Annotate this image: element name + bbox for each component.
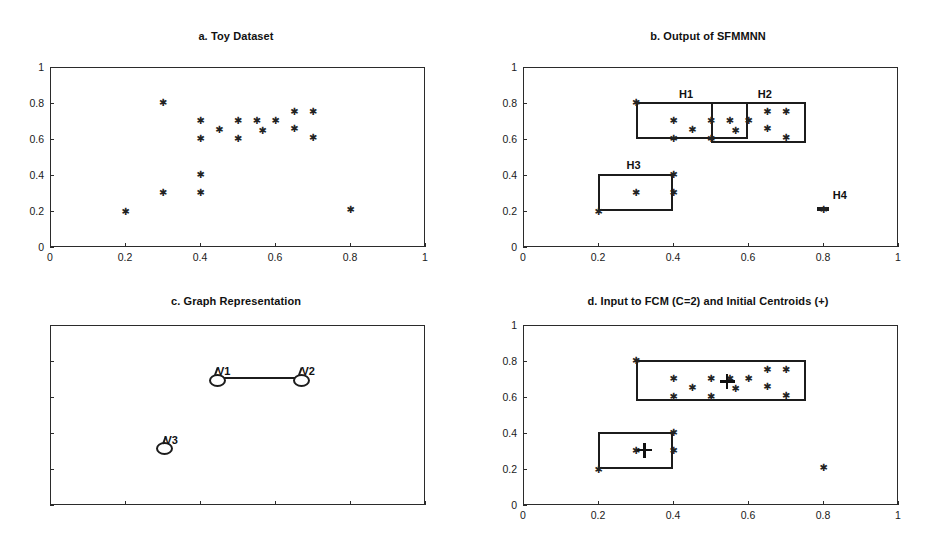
graph-node-label: V2 — [301, 365, 314, 377]
data-point-marker — [122, 208, 129, 215]
data-point-marker — [197, 189, 204, 196]
axis-tick-label-x: 0.2 — [591, 509, 606, 521]
panel-d-title: d. Input to FCM (C=2) and Initial Centro… — [472, 295, 944, 307]
data-point-marker — [763, 108, 770, 115]
axis-tick-label-y: 0.6 — [20, 133, 44, 145]
axis-tick-y — [523, 325, 527, 326]
data-point-marker — [763, 125, 770, 132]
axis-tick-y — [523, 361, 527, 362]
axis-tick-label-y: 1 — [493, 319, 517, 331]
axis-tick-y — [523, 103, 527, 104]
axis-tick-label-y: 0 — [493, 241, 517, 253]
axis-tick-y — [523, 139, 527, 140]
data-point-marker — [234, 135, 241, 142]
axis-tick-label-y: 0.4 — [493, 427, 517, 439]
axis-tick-y — [523, 505, 527, 506]
centroid-marker — [720, 374, 735, 389]
data-point-marker — [670, 117, 677, 124]
panel-a-title: a. Toy Dataset — [0, 30, 472, 42]
data-point-marker — [670, 135, 677, 142]
data-point-marker — [197, 135, 204, 142]
axis-tick-y — [50, 325, 54, 326]
axis-tick-label-y: 0.6 — [493, 391, 517, 403]
data-point-marker — [258, 127, 265, 134]
axis-tick-y — [523, 175, 527, 176]
axis-tick-label-x: 1 — [422, 251, 428, 263]
panel-c-graph-representation: c. Graph Representation V1V2V3 — [0, 295, 472, 558]
centroid-marker — [637, 443, 652, 458]
axis-tick-y — [50, 67, 54, 68]
axis-tick-y — [523, 433, 527, 434]
figure-canvas: a. Toy Dataset 00.20.40.60.8100.20.40.60… — [0, 0, 944, 558]
axis-tick-label-x: 0 — [520, 251, 526, 263]
axis-tick-label-y: 0.8 — [493, 355, 517, 367]
axis-tick-y — [50, 139, 54, 140]
data-point-marker — [632, 99, 639, 106]
data-point-marker — [782, 366, 789, 373]
data-point-marker — [159, 99, 166, 106]
axis-tick-label-x: 0.4 — [193, 251, 208, 263]
data-point-marker — [688, 126, 695, 133]
data-point-marker — [820, 464, 827, 471]
data-point-marker — [632, 357, 639, 364]
data-point-marker — [272, 117, 279, 124]
axis-tick-label-y: 0.2 — [20, 205, 44, 217]
panel-a-plot-area — [50, 67, 425, 247]
axis-tick-x — [350, 243, 351, 247]
axis-tick-x — [125, 243, 126, 247]
data-point-marker — [670, 429, 677, 436]
axis-tick-label-x: 0.2 — [118, 251, 133, 263]
data-point-marker — [670, 447, 677, 454]
axis-tick-label-x: 0.2 — [591, 251, 606, 263]
graph-edge — [215, 377, 299, 379]
data-point-marker — [688, 384, 695, 391]
axis-tick-label-y: 0.8 — [493, 97, 517, 109]
axis-tick-label-y: 0.6 — [493, 133, 517, 145]
axis-tick-label-y: 0.2 — [493, 205, 517, 217]
axis-tick-label-y: 0.2 — [493, 463, 517, 475]
hyperbox-label: H4 — [833, 189, 847, 201]
axis-tick-x — [425, 501, 426, 505]
data-point-marker — [726, 117, 733, 124]
axis-tick-x — [823, 243, 824, 247]
data-point-marker — [731, 127, 738, 134]
data-point-marker — [670, 189, 677, 196]
axis-tick-label-y: 0 — [493, 499, 517, 511]
axis-tick-y — [50, 247, 54, 248]
data-point-marker — [670, 375, 677, 382]
axis-tick-y — [50, 175, 54, 176]
hyperbox-label: H1 — [679, 88, 693, 100]
data-point-marker — [632, 189, 639, 196]
axis-tick-x — [673, 243, 674, 247]
data-point-marker — [290, 125, 297, 132]
panel-d-input-to-fcm: d. Input to FCM (C=2) and Initial Centro… — [472, 295, 944, 558]
axis-tick-x — [748, 501, 749, 505]
axis-tick-y — [523, 397, 527, 398]
data-point-marker — [745, 117, 752, 124]
panel-b-title: b. Output of SFMMNN — [472, 30, 944, 42]
axis-tick-x — [898, 501, 899, 505]
axis-tick-y — [50, 103, 54, 104]
data-point-marker — [215, 126, 222, 133]
data-point-marker — [707, 135, 714, 142]
axis-tick-label-y: 1 — [20, 61, 44, 73]
data-point-marker — [820, 206, 827, 213]
graph-node-label: V1 — [217, 365, 230, 377]
axis-tick-y — [523, 247, 527, 248]
axis-tick-label-x: 0.6 — [741, 509, 756, 521]
axis-tick-label-x: 0 — [520, 509, 526, 521]
axis-tick-x — [350, 501, 351, 505]
axis-tick-x — [823, 501, 824, 505]
axis-tick-x — [598, 243, 599, 247]
axis-tick-x — [200, 501, 201, 505]
data-point-marker — [782, 108, 789, 115]
data-point-marker — [234, 117, 241, 124]
data-point-marker — [595, 208, 602, 215]
axis-tick-y — [523, 211, 527, 212]
data-point-marker — [707, 393, 714, 400]
axis-tick-label-x: 0.6 — [268, 251, 283, 263]
axis-tick-y — [50, 433, 54, 434]
axis-tick-y — [50, 211, 54, 212]
axis-tick-y — [50, 397, 54, 398]
data-point-marker — [290, 108, 297, 115]
